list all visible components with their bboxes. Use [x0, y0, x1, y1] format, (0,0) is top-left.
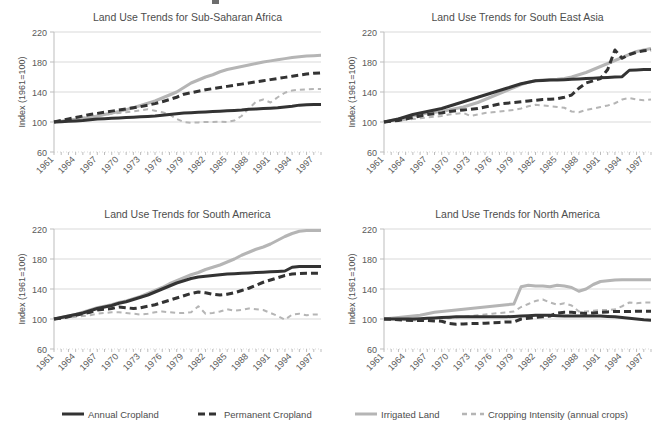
stray-marks: [212, 0, 219, 4]
y-axis-title: Index (1961=100): [347, 254, 357, 325]
y-tick-label: 220: [32, 225, 47, 235]
y-tick-label: 100: [362, 118, 377, 128]
y-tick-label: 180: [362, 255, 377, 265]
legend-label-permanent_cropland: Permanent Cropland: [224, 409, 312, 420]
y-tick-label: 220: [362, 28, 377, 38]
y-tick-label: 220: [32, 28, 47, 38]
y-tick-label: 100: [32, 118, 47, 128]
top-clipped-mark: [212, 0, 219, 4]
y-axis-title: Index (1961=100): [17, 57, 27, 128]
panel-title: Land Use Trends for Sub-Saharan Africa: [93, 11, 282, 23]
y-tick-label: 100: [362, 315, 377, 325]
land-use-trends-figure: Land Use Trends for Sub-Saharan Africa60…: [0, 0, 661, 436]
y-tick-label: 140: [362, 285, 377, 295]
y-axis-title: Index (1961=100): [17, 254, 27, 325]
legend-label-annual_cropland: Annual Cropland: [88, 409, 159, 420]
y-tick-label: 180: [32, 255, 47, 265]
y-tick-label: 220: [362, 225, 377, 235]
y-tick-label: 140: [32, 285, 47, 295]
y-tick-label: 180: [362, 58, 377, 68]
y-tick-label: 140: [32, 88, 47, 98]
y-axis-title: Index (1961=100): [347, 57, 357, 128]
panel-title: Land Use Trends for South America: [104, 208, 270, 220]
panel-title: Land Use Trends for South East Asia: [431, 11, 603, 23]
y-tick-label: 140: [362, 88, 377, 98]
legend-label-irrigated_land: Irrigated Land: [381, 409, 440, 420]
legend-label-cropping_intensity: Cropping Intensity (annual crops): [488, 409, 628, 420]
y-tick-label: 180: [32, 58, 47, 68]
panel-title: Land Use Trends for North America: [435, 208, 600, 220]
y-tick-label: 100: [32, 315, 47, 325]
